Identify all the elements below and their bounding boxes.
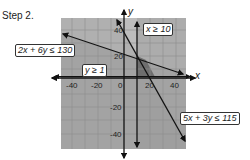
svg-text:20: 20 <box>145 81 154 90</box>
svg-text:-20: -20 <box>91 81 103 90</box>
label-ineq-5x-3y: 5x + 3y ≤ 115 <box>180 112 240 125</box>
inequality-graph: -40-20 02040 4020 -20-40 <box>0 0 250 160</box>
x-axis-label: x <box>193 70 202 81</box>
y-axis-label: y <box>126 6 135 17</box>
label-ineq-x-10: x ≥ 10 <box>143 23 173 36</box>
svg-text:-40: -40 <box>66 81 78 90</box>
svg-text:40: 40 <box>170 81 179 90</box>
svg-text:0: 0 <box>118 81 123 90</box>
svg-text:-20: -20 <box>110 103 122 112</box>
svg-text:40: 40 <box>114 26 123 35</box>
svg-text:20: 20 <box>114 52 123 61</box>
svg-text:-40: -40 <box>110 130 122 139</box>
label-ineq-2x-6y: 2x + 6y ≤ 130 <box>15 44 75 57</box>
label-ineq-y-1: y ≥ 1 <box>82 64 107 77</box>
